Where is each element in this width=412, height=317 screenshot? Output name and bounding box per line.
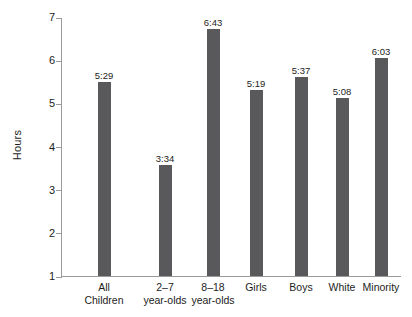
bar[interactable] — [207, 29, 220, 276]
y-axis-tick — [56, 147, 62, 148]
bar-value-label: 5:08 — [319, 87, 365, 97]
x-label-line-1: Minority — [363, 281, 400, 293]
bar[interactable] — [159, 165, 172, 276]
y-axis-tick-label: 7 — [35, 12, 55, 23]
y-axis-title-text: Hours — [11, 130, 23, 160]
plot-area: 5:293:346:435:195:375:086:03 — [61, 18, 401, 277]
bar-value-label: 6:43 — [190, 18, 236, 28]
bar[interactable] — [250, 90, 263, 276]
y-axis-tick-label: 1 — [35, 271, 55, 282]
y-axis-tick-label: 4 — [35, 142, 55, 153]
y-axis-tick — [56, 61, 62, 62]
bar-value-label: 6:03 — [358, 47, 404, 57]
x-axis-category-label: AllChildren — [71, 281, 137, 306]
bar[interactable] — [375, 58, 388, 276]
x-axis-line — [61, 276, 401, 277]
y-axis-tick — [56, 18, 62, 19]
bar-value-label: 5:19 — [233, 79, 279, 89]
y-axis-tick-label: 3 — [35, 185, 55, 196]
y-axis-tick-labels: 7654321 — [33, 18, 55, 277]
y-axis-title: Hours — [0, 0, 34, 290]
y-axis-tick — [56, 277, 62, 278]
x-label-line-2: year-olds — [180, 294, 246, 307]
bar-chart: Hours 7654321 5:293:346:435:195:375:086:… — [0, 0, 412, 317]
bar-value-label: 5:29 — [81, 71, 127, 81]
x-label-line-1: 2–7 — [156, 281, 174, 293]
x-label-line-1: 8–18 — [201, 281, 224, 293]
bar[interactable] — [295, 77, 308, 276]
x-label-line-1: Girls — [245, 281, 267, 293]
bar[interactable] — [336, 98, 349, 276]
bar[interactable] — [98, 82, 111, 276]
y-axis-tick-label: 5 — [35, 98, 55, 109]
y-axis-tick — [56, 233, 62, 234]
x-label-line-1: All — [98, 281, 110, 293]
y-axis-tick — [56, 104, 62, 105]
y-axis-tick-label: 2 — [35, 228, 55, 239]
y-axis-tick-label: 6 — [35, 55, 55, 66]
bar-value-label: 5:37 — [278, 66, 324, 76]
y-axis-tick — [56, 190, 62, 191]
x-axis-category-labels: AllChildren2–7year-olds8–18year-oldsGirl… — [61, 281, 401, 315]
x-label-line-2: Children — [71, 294, 137, 307]
bar-value-label: 3:34 — [142, 154, 188, 164]
x-axis-category-label: Minority — [348, 281, 412, 294]
